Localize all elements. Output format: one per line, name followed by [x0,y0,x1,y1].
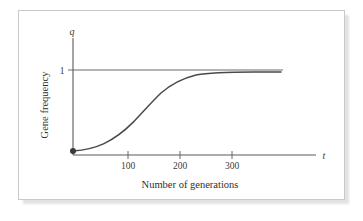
gene-frequency-curve [73,72,281,151]
figure-root: q t 1 100 200 300 Number of generations … [0,0,363,221]
x-tick-label-200: 200 [173,161,188,171]
x-axis-title: Number of generations [142,179,239,190]
y-tick-label-1: 1 [60,66,65,76]
y-axis-title: Gene frequency [39,71,50,139]
y-axis-variable-label: q [70,26,75,37]
x-axis-variable-label: t [323,150,326,161]
x-tick-label-300: 300 [225,161,240,171]
initial-point-marker [70,148,76,154]
plot-canvas: q t 1 100 200 300 Number of generations … [0,0,363,221]
x-tick-label-100: 100 [121,161,136,171]
